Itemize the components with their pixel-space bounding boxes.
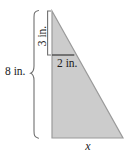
total-height-label: 8 in. <box>5 66 25 78</box>
geometry-figure: 8 in. 3 in. 2 in. x <box>0 0 140 153</box>
inner-base-label: 2 in. <box>57 58 77 70</box>
unknown-base-label: x <box>85 140 90 152</box>
triangle-shape <box>52 11 123 138</box>
upper-height-label: 3 in. <box>37 26 49 46</box>
